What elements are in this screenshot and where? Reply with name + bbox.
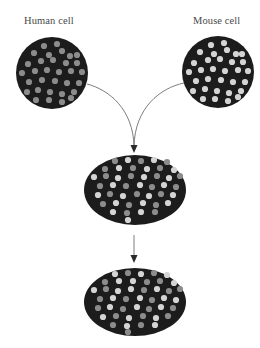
human-marker-dot xyxy=(33,97,39,103)
mouse-marker-dot xyxy=(235,94,241,100)
mouse-marker-dot xyxy=(115,175,121,181)
mouse-marker-dot xyxy=(158,304,164,310)
human-marker-dot xyxy=(152,209,158,215)
diagram-canvas xyxy=(0,0,260,348)
mouse-marker-dot xyxy=(115,288,121,294)
human-marker-dot xyxy=(59,48,65,54)
human-marker-dot xyxy=(76,80,82,86)
human-marker-dot xyxy=(130,165,136,171)
human-marker-dot xyxy=(138,158,144,164)
mouse-marker-dot xyxy=(141,174,147,180)
mouse-marker-dot xyxy=(144,166,150,172)
human-marker-dot xyxy=(166,288,172,294)
human-marker-dot xyxy=(124,210,130,216)
mouse-to-hybrid-curve xyxy=(134,83,184,146)
human-marker-dot xyxy=(59,99,65,105)
mouse-marker-dot xyxy=(224,47,230,53)
human-marker-dot xyxy=(68,68,74,74)
mouse-marker-dot xyxy=(222,68,228,74)
human-marker-dot xyxy=(95,305,101,311)
mouse-marker-dot xyxy=(190,88,196,94)
human-marker-dot xyxy=(120,306,126,312)
human-marker-dot xyxy=(123,183,129,189)
hybrid-cell-early-membrane xyxy=(84,155,186,225)
human-marker-dot xyxy=(47,89,53,95)
mouse-marker-dot xyxy=(240,59,246,65)
human-marker-dot xyxy=(31,50,37,56)
mouse-marker-dot xyxy=(221,40,227,46)
human-marker-dot xyxy=(67,53,73,59)
hybrid-cell-mixed xyxy=(84,268,186,336)
mouse-marker-dot xyxy=(110,209,116,215)
mouse-marker-dot xyxy=(116,278,122,284)
human-marker-dot xyxy=(173,184,179,190)
mouse-marker-dot xyxy=(113,200,119,206)
mouse-marker-dot xyxy=(137,182,143,188)
mouse-marker-dot xyxy=(130,278,136,284)
mouse-marker-dot xyxy=(197,49,203,55)
mouse-marker-dot xyxy=(173,297,179,303)
human-marker-dot xyxy=(154,173,160,179)
human-marker-dot xyxy=(157,278,163,284)
mouse-marker-dot xyxy=(107,304,113,310)
mouse-marker-dot xyxy=(208,42,214,48)
mouse-marker-dot xyxy=(171,280,177,286)
human-marker-dot xyxy=(146,306,152,312)
mouse-marker-dot xyxy=(225,98,231,104)
mouse-marker-dot xyxy=(134,304,140,310)
human-marker-dot xyxy=(26,79,32,85)
human-marker-dot xyxy=(19,70,25,76)
mouse-marker-dot xyxy=(202,86,208,92)
human-marker-dot xyxy=(123,296,129,302)
mouse-marker-dot xyxy=(126,315,132,321)
mouse-marker-dot xyxy=(238,88,244,94)
human-marker-dot xyxy=(134,191,140,197)
mouse-marker-dot xyxy=(235,67,241,73)
mouse-marker-dot xyxy=(128,286,134,292)
human-marker-dot xyxy=(138,322,144,328)
mouse-marker-dot xyxy=(91,174,97,180)
human-marker-dot xyxy=(128,173,134,179)
human-marker-dot xyxy=(110,322,116,328)
human-marker-dot xyxy=(177,173,183,179)
mouse-marker-dot xyxy=(138,209,144,215)
human-marker-dot xyxy=(149,297,155,303)
mouse-marker-dot xyxy=(218,77,224,83)
mouse-marker-dot xyxy=(200,96,206,102)
mouse-marker-dot xyxy=(154,286,160,292)
human-marker-dot xyxy=(153,202,159,208)
mouse-marker-dot xyxy=(205,76,211,82)
mouse-marker-dot xyxy=(138,271,144,277)
cells xyxy=(16,36,254,336)
human-marker-dot xyxy=(170,305,176,311)
human-marker-dot xyxy=(97,183,103,189)
human-marker-dot xyxy=(35,87,41,93)
mouse-marker-dot xyxy=(137,295,143,301)
mouse-marker-dot xyxy=(226,90,232,96)
mouse-marker-dot xyxy=(193,78,199,84)
mouse-marker-dot xyxy=(214,88,220,94)
human-marker-dot xyxy=(46,52,52,58)
human-marker-dot xyxy=(97,296,103,302)
human-marker-dot xyxy=(74,52,80,58)
human-marker-dot xyxy=(102,279,108,285)
human-marker-dot xyxy=(71,89,77,95)
human-marker-dot xyxy=(44,67,50,73)
mouse-marker-dot xyxy=(140,200,146,206)
mouse-marker-dot xyxy=(242,79,248,85)
mouse-marker-dot xyxy=(191,60,197,66)
human-marker-dot xyxy=(165,313,171,319)
mouse-marker-dot xyxy=(245,68,251,74)
mouse-marker-dot xyxy=(161,182,167,188)
human-marker-dot xyxy=(59,91,65,97)
human-marker-dot xyxy=(38,58,44,64)
cell-fusion-diagram: Human cell Mouse cell xyxy=(0,0,260,348)
human-marker-dot xyxy=(112,158,118,164)
human-marker-dot xyxy=(103,173,109,179)
human-marker-dot xyxy=(140,313,146,319)
mouse-marker-dot xyxy=(198,67,204,73)
human-marker-dot xyxy=(39,77,45,83)
human-marker-dot xyxy=(158,191,164,197)
mouse-marker-dot xyxy=(161,295,167,301)
human-marker-dot xyxy=(100,201,106,207)
